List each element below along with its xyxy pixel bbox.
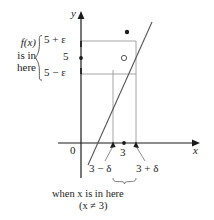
y-label-five-plus-epsilon: 5 + ε <box>44 34 66 46</box>
y-axis-point-five-dot <box>79 56 83 60</box>
limit-point-open-circle <box>121 55 126 60</box>
figure-canvas <box>0 0 214 220</box>
origin-label: 0 <box>70 145 76 157</box>
f-of-x-label-line1: f(x) <box>4 36 36 49</box>
caption-x-not-equal-three: (x ≠ 3) <box>79 200 108 211</box>
x-axis-label: x <box>193 145 198 157</box>
delta-left-pointer-line <box>105 147 113 161</box>
x-label-three: 3 <box>120 147 126 159</box>
epsilon-delta-limit-figure: f(x) is in here 5 + ε 5 5 − ε y x 0 3 3 … <box>0 0 214 220</box>
y-label-five-minus-epsilon: 5 − ε <box>44 67 66 79</box>
x-label-three-plus-delta: 3 + δ <box>136 163 158 175</box>
caption-when-x-is-in-here: when x is in here <box>52 188 124 199</box>
guide-lines-group <box>81 41 136 143</box>
y-axis-label: y <box>71 8 76 20</box>
f-of-x-label-line2: is in <box>4 49 36 62</box>
delta-interval-brace <box>113 178 136 184</box>
y-label-five: 5 <box>63 51 69 63</box>
x-axis-point-three-dot <box>122 141 126 145</box>
y-axis-arrowhead <box>78 11 85 19</box>
x-label-three-minus-delta: 3 − δ <box>89 163 111 175</box>
f-of-x-label-line3: here <box>4 61 36 74</box>
f-of-x-bracket-label: f(x) is in here <box>4 36 36 74</box>
delta-right-pointer-line <box>137 147 146 161</box>
function-value-filled-dot <box>125 30 129 34</box>
f-of-x-left-brace <box>36 36 42 81</box>
